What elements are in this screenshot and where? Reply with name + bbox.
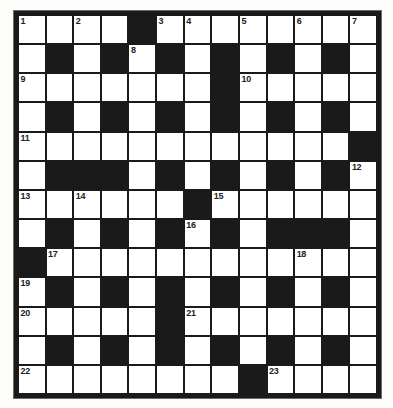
crossword-cell[interactable] bbox=[184, 132, 212, 161]
crossword-cell[interactable] bbox=[239, 132, 267, 161]
crossword-cell[interactable] bbox=[349, 219, 377, 248]
crossword-cell[interactable] bbox=[73, 132, 101, 161]
crossword-cell[interactable]: 2 bbox=[73, 15, 101, 44]
crossword-cell[interactable] bbox=[239, 336, 267, 365]
crossword-cell[interactable] bbox=[349, 365, 377, 394]
crossword-cell[interactable] bbox=[349, 190, 377, 219]
crossword-cell[interactable] bbox=[46, 190, 74, 219]
crossword-cell[interactable] bbox=[128, 190, 156, 219]
crossword-cell[interactable] bbox=[156, 365, 184, 394]
crossword-cell[interactable] bbox=[294, 132, 322, 161]
crossword-cell[interactable] bbox=[349, 73, 377, 102]
crossword-cell[interactable] bbox=[211, 15, 239, 44]
crossword-cell[interactable] bbox=[156, 248, 184, 277]
crossword-cell[interactable] bbox=[18, 219, 46, 248]
crossword-cell[interactable] bbox=[184, 277, 212, 306]
crossword-cell[interactable]: 22 bbox=[18, 365, 46, 394]
crossword-cell[interactable] bbox=[239, 307, 267, 336]
crossword-cell[interactable] bbox=[184, 44, 212, 73]
crossword-cell[interactable] bbox=[46, 15, 74, 44]
crossword-cell[interactable] bbox=[101, 365, 129, 394]
crossword-cell[interactable] bbox=[128, 277, 156, 306]
crossword-cell[interactable] bbox=[239, 161, 267, 190]
crossword-cell[interactable] bbox=[349, 248, 377, 277]
crossword-grid[interactable]: 1234567891011121314151617181920212223 bbox=[18, 15, 377, 394]
crossword-cell[interactable] bbox=[18, 102, 46, 131]
crossword-cell[interactable] bbox=[101, 248, 129, 277]
crossword-cell[interactable] bbox=[211, 132, 239, 161]
crossword-cell[interactable] bbox=[128, 248, 156, 277]
crossword-cell[interactable]: 15 bbox=[211, 190, 239, 219]
crossword-cell[interactable]: 23 bbox=[267, 365, 295, 394]
crossword-cell[interactable] bbox=[184, 161, 212, 190]
crossword-cell[interactable] bbox=[322, 307, 350, 336]
crossword-cell[interactable] bbox=[349, 277, 377, 306]
crossword-cell[interactable] bbox=[267, 248, 295, 277]
crossword-cell[interactable] bbox=[101, 307, 129, 336]
crossword-cell[interactable] bbox=[294, 44, 322, 73]
crossword-cell[interactable] bbox=[184, 248, 212, 277]
crossword-cell[interactable] bbox=[211, 365, 239, 394]
crossword-cell[interactable] bbox=[267, 190, 295, 219]
crossword-cell[interactable] bbox=[156, 190, 184, 219]
crossword-cell[interactable] bbox=[128, 307, 156, 336]
crossword-cell[interactable] bbox=[128, 161, 156, 190]
crossword-cell[interactable]: 19 bbox=[18, 277, 46, 306]
crossword-cell[interactable] bbox=[156, 73, 184, 102]
crossword-cell[interactable] bbox=[46, 73, 74, 102]
crossword-cell[interactable] bbox=[101, 15, 129, 44]
crossword-cell[interactable] bbox=[294, 307, 322, 336]
crossword-cell[interactable] bbox=[46, 132, 74, 161]
crossword-cell[interactable]: 13 bbox=[18, 190, 46, 219]
crossword-cell[interactable]: 3 bbox=[156, 15, 184, 44]
crossword-cell[interactable]: 11 bbox=[18, 132, 46, 161]
crossword-cell[interactable] bbox=[184, 365, 212, 394]
crossword-cell[interactable]: 21 bbox=[184, 307, 212, 336]
crossword-cell[interactable] bbox=[184, 73, 212, 102]
crossword-cell[interactable] bbox=[349, 102, 377, 131]
crossword-cell[interactable]: 20 bbox=[18, 307, 46, 336]
crossword-cell[interactable] bbox=[184, 102, 212, 131]
crossword-cell[interactable]: 9 bbox=[18, 73, 46, 102]
crossword-cell[interactable] bbox=[101, 73, 129, 102]
crossword-cell[interactable] bbox=[267, 132, 295, 161]
crossword-cell[interactable]: 7 bbox=[349, 15, 377, 44]
crossword-cell[interactable] bbox=[294, 102, 322, 131]
crossword-cell[interactable] bbox=[239, 190, 267, 219]
crossword-cell[interactable] bbox=[322, 365, 350, 394]
crossword-cell[interactable] bbox=[156, 132, 184, 161]
crossword-cell[interactable] bbox=[239, 44, 267, 73]
crossword-cell[interactable] bbox=[322, 15, 350, 44]
crossword-cell[interactable] bbox=[128, 219, 156, 248]
crossword-cell[interactable] bbox=[267, 307, 295, 336]
crossword-cell[interactable] bbox=[239, 248, 267, 277]
crossword-cell[interactable] bbox=[294, 365, 322, 394]
crossword-cell[interactable] bbox=[322, 73, 350, 102]
crossword-cell[interactable] bbox=[46, 307, 74, 336]
crossword-cell[interactable]: 8 bbox=[128, 44, 156, 73]
crossword-cell[interactable] bbox=[18, 44, 46, 73]
crossword-cell[interactable] bbox=[101, 132, 129, 161]
crossword-cell[interactable] bbox=[18, 336, 46, 365]
crossword-cell[interactable]: 10 bbox=[239, 73, 267, 102]
crossword-cell[interactable]: 17 bbox=[46, 248, 74, 277]
crossword-cell[interactable] bbox=[128, 73, 156, 102]
crossword-cell[interactable] bbox=[73, 102, 101, 131]
crossword-cell[interactable] bbox=[267, 73, 295, 102]
crossword-cell[interactable] bbox=[73, 336, 101, 365]
crossword-cell[interactable] bbox=[239, 102, 267, 131]
crossword-cell[interactable]: 14 bbox=[73, 190, 101, 219]
crossword-cell[interactable] bbox=[73, 248, 101, 277]
crossword-cell[interactable] bbox=[322, 132, 350, 161]
crossword-cell[interactable] bbox=[322, 248, 350, 277]
crossword-cell[interactable]: 5 bbox=[239, 15, 267, 44]
crossword-cell[interactable] bbox=[294, 73, 322, 102]
crossword-cell[interactable]: 4 bbox=[184, 15, 212, 44]
crossword-cell[interactable] bbox=[211, 248, 239, 277]
crossword-cell[interactable] bbox=[239, 219, 267, 248]
crossword-cell[interactable]: 6 bbox=[294, 15, 322, 44]
crossword-cell[interactable] bbox=[128, 132, 156, 161]
crossword-cell[interactable] bbox=[73, 44, 101, 73]
crossword-cell[interactable] bbox=[101, 190, 129, 219]
crossword-cell[interactable] bbox=[239, 277, 267, 306]
